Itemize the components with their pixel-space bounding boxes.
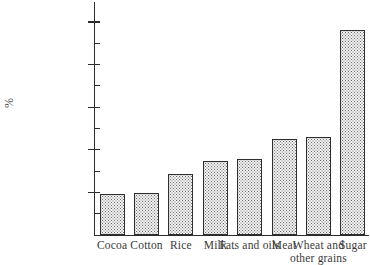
bar [306, 137, 331, 235]
x-axis-category-label: Cotton [130, 239, 163, 252]
x-axis-label-line: Cotton [130, 239, 163, 251]
x-axis-label-line: Wheat and [293, 239, 344, 251]
x-axis-label-line: Sugar [339, 239, 367, 251]
bar [237, 159, 262, 235]
bar [340, 30, 365, 234]
x-axis-category-label: Sugar [339, 239, 367, 252]
x-axis-category-label: Cocoa [97, 239, 127, 252]
x-axis-label-line: Cocoa [97, 239, 127, 251]
bar [168, 174, 193, 235]
bar [203, 161, 228, 234]
x-axis-label-line: other grains [290, 252, 347, 265]
x-axis-category-labels: CocoaCottonRiceMilkFats and oilsMeatWhea… [95, 239, 370, 263]
y-axis-title: % [2, 98, 17, 108]
bar [272, 139, 297, 235]
bar [100, 194, 125, 234]
bar [134, 193, 159, 235]
bars-layer [95, 0, 370, 235]
x-axis-category-label: Rice [170, 239, 192, 252]
x-axis-label-line: Rice [170, 239, 192, 251]
